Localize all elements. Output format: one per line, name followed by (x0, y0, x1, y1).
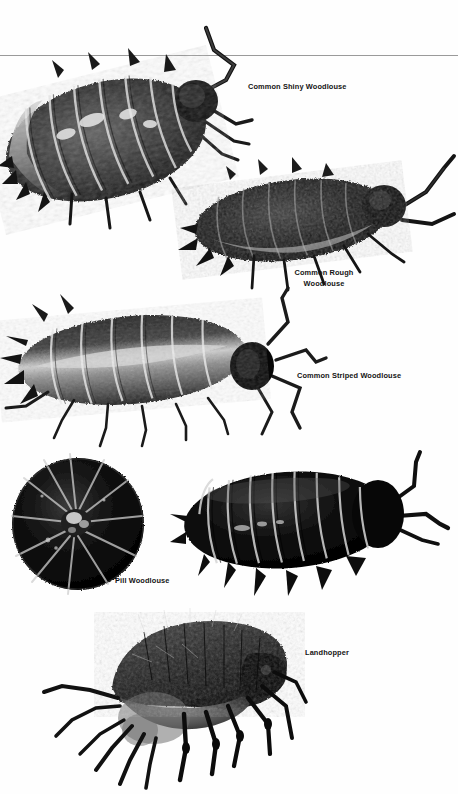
caption-landhopper: Landhopper (305, 648, 349, 659)
caption-common-rough-woodlouse: Common Rough Woodlouse (284, 268, 364, 289)
antenna (206, 28, 234, 88)
photo-landhopper (34, 602, 324, 792)
caption-common-shiny-woodlouse: Common Shiny Woodlouse (248, 82, 347, 93)
caption-common-striped-woodlouse: Common Striped Woodlouse (297, 371, 401, 382)
caption-pill-woodlouse: Pill Woodlouse (115, 576, 170, 587)
plate-page: Common Shiny Woodlouse (0, 0, 458, 794)
photo-pill-woodlouse-extended (170, 450, 450, 600)
photo-common-striped-woodlouse (0, 288, 330, 448)
